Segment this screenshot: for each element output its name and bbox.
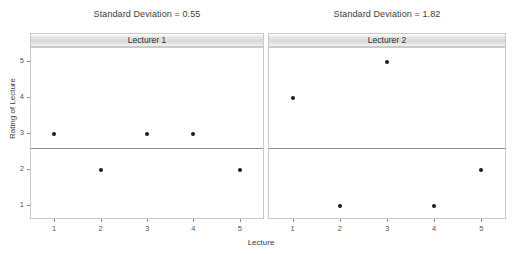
data-point: [99, 168, 103, 172]
data-point: [385, 60, 389, 64]
x-tick-mark: [101, 219, 102, 222]
x-tick-mark: [193, 219, 194, 222]
x-tick-label: 4: [183, 224, 203, 233]
data-point: [291, 96, 295, 100]
x-tick-mark: [481, 219, 482, 222]
x-tick-label: 5: [230, 224, 250, 233]
x-tick-label: 4: [424, 224, 444, 233]
data-point: [145, 132, 149, 136]
facet-strip-label-lecturer-2: Lecturer 2: [269, 35, 505, 46]
x-tick-mark: [147, 219, 148, 222]
x-axis-label: Lecture: [0, 238, 522, 247]
data-point: [52, 132, 56, 136]
x-tick-mark: [293, 219, 294, 222]
x-tick-label: 3: [137, 224, 157, 233]
plot-panel-lecturer-1: [30, 47, 264, 219]
y-tick-label: 4: [10, 93, 24, 101]
data-point: [191, 132, 195, 136]
x-tick-mark: [340, 219, 341, 222]
x-tick-label: 1: [44, 224, 64, 233]
panel-title-lecturer-2: Standard Deviation = 1.82: [268, 9, 506, 19]
y-tick-label: 5: [10, 57, 24, 65]
scatter-plot-figure: Standard Deviation = 0.55 Standard Devia…: [0, 0, 522, 254]
mean-reference-line: [269, 148, 505, 149]
data-point: [238, 168, 242, 172]
data-point: [479, 168, 483, 172]
y-axis-label: Rating of Lecture: [8, 61, 17, 157]
x-tick-label: 3: [377, 224, 397, 233]
mean-reference-line: [31, 148, 263, 149]
y-tick-label: 1: [10, 201, 24, 209]
facet-strip-lecturer-2: Lecturer 2: [268, 33, 506, 47]
y-tick-label: 3: [10, 129, 24, 137]
x-tick-label: 2: [91, 224, 111, 233]
y-tick-mark: [27, 97, 30, 98]
x-tick-mark: [240, 219, 241, 222]
x-tick-label: 1: [283, 224, 303, 233]
data-point: [338, 204, 342, 208]
facet-strip-lecturer-1: Lecturer 1: [30, 33, 264, 47]
x-tick-mark: [387, 219, 388, 222]
plot-panel-lecturer-2: [268, 47, 506, 219]
y-tick-label: 2: [10, 165, 24, 173]
x-tick-mark: [434, 219, 435, 222]
panel-title-lecturer-1: Standard Deviation = 0.55: [30, 9, 264, 19]
y-tick-mark: [27, 169, 30, 170]
y-tick-mark: [27, 205, 30, 206]
y-tick-mark: [27, 61, 30, 62]
y-tick-mark: [27, 133, 30, 134]
x-tick-mark: [54, 219, 55, 222]
data-point: [432, 204, 436, 208]
x-tick-label: 5: [471, 224, 491, 233]
x-tick-label: 2: [330, 224, 350, 233]
facet-strip-label-lecturer-1: Lecturer 1: [31, 35, 263, 46]
